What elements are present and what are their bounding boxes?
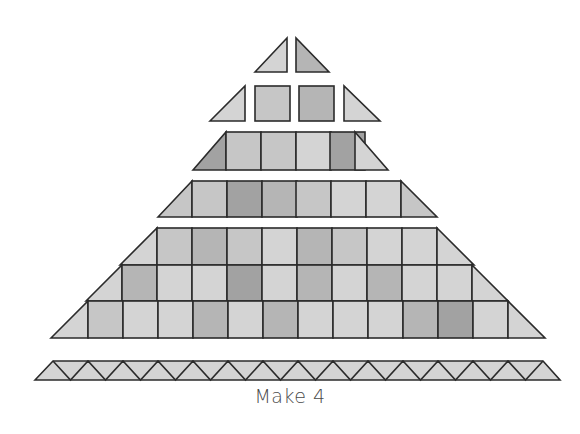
row-3-trapezoid [193,132,388,170]
square-patch [263,301,298,338]
square-patch [158,301,193,338]
square-patch [366,181,401,217]
edge-triangle [355,132,388,170]
square-patch [332,265,367,301]
square-patch [437,265,472,301]
row-1-triangles [255,38,329,72]
square-patch [122,265,157,301]
square-patch [226,132,261,170]
square-patch [299,86,334,121]
square-patch [473,301,508,338]
square-patch [298,301,333,338]
square-patch [255,86,290,121]
half-square-triangle [296,38,329,72]
sawtooth-strip [35,361,560,380]
half-square-triangle [210,86,245,121]
square-patch [297,228,332,265]
square-patch [367,265,402,301]
edge-triangle [193,132,226,170]
square-patch [296,132,331,170]
square-patch [123,301,158,338]
make-count-caption: Make 4 [0,385,580,407]
square-patch [333,301,368,338]
edge-triangle [437,228,474,265]
square-patch [296,181,331,217]
square-patch [438,301,473,338]
edge-triangle [51,301,88,338]
square-patch [262,228,297,265]
edge-triangle [472,265,508,301]
square-patch [261,132,296,170]
square-patch [332,228,367,265]
square-patch [227,228,262,265]
half-square-triangle [255,38,287,72]
square-patch [297,265,332,301]
half-square-triangle [344,86,380,121]
square-patch [192,265,227,301]
square-patch [192,181,227,217]
square-patch [228,301,263,338]
square-patch [402,265,437,301]
edge-triangle [401,181,437,217]
row-2-pieces [210,86,380,121]
edge-triangle [158,181,192,217]
square-patch [88,301,123,338]
edge-triangle [508,301,545,338]
square-patch [403,301,438,338]
square-patch [331,181,366,217]
row-5-large-trapezoid [51,228,545,338]
square-patch [402,228,437,265]
square-patch [157,228,192,265]
square-patch [227,265,262,301]
edge-triangle [120,228,157,265]
square-patch [193,301,228,338]
square-patch [227,181,262,217]
quilt-diagram [0,0,580,434]
square-patch [367,228,402,265]
edge-triangle [86,265,122,301]
square-patch [262,181,297,217]
square-patch [157,265,192,301]
row-4-trapezoid [158,181,437,217]
square-patch [368,301,403,338]
square-patch [262,265,297,301]
square-patch [192,228,227,265]
